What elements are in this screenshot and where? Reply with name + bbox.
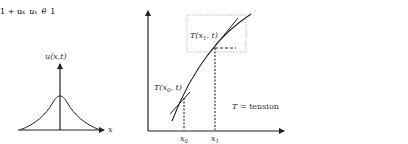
tick-x1: x1	[211, 134, 219, 144]
tick-x0: x0	[180, 134, 189, 144]
tension-legend: T = tension	[232, 102, 279, 111]
string-tension-diagram: u(x,t) x T(x1, t) T(x0, t) x0 x1 T = ten…	[0, 0, 408, 144]
label-tension-x1: T(x1, t)	[190, 31, 218, 41]
middle-plot: T(x1, t) T(x0, t) x0 x1 T = tension	[148, 11, 284, 144]
left-y-label: u(x,t)	[45, 52, 67, 61]
tangent-x0	[170, 92, 190, 114]
label-tension-x0: T(x0, t)	[154, 83, 182, 93]
left-x-label: x	[108, 125, 113, 134]
left-plot: u(x,t) x	[18, 52, 113, 134]
